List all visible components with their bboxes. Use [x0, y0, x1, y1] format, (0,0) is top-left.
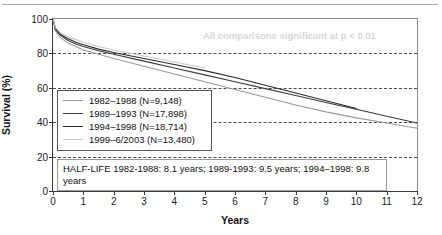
x-tick-label: 12: [411, 196, 422, 207]
x-tick-label: 0: [50, 196, 56, 207]
y-tick-label: 60: [37, 82, 48, 93]
legend-swatch-line-icon: [63, 113, 83, 114]
x-tick-mark: [387, 191, 388, 195]
y-tick-label: 0: [42, 186, 48, 197]
figure: Survival (%) Years 100806040200 01234567…: [0, 0, 442, 235]
y-tick-label: 20: [37, 151, 48, 162]
legend-item-label: 1999–6/2003 (N=13,480): [89, 134, 195, 145]
x-tick-label: 1: [81, 196, 87, 207]
x-axis-label: Years: [221, 214, 249, 226]
legend-swatch-line-icon: [63, 139, 83, 140]
significance-note: All comparisons significant at p < 0.01: [203, 30, 376, 41]
legend: 1982–1988 (N=9,148)1989–1993 (N=17,898)1…: [57, 90, 212, 151]
x-tick-mark: [296, 191, 297, 195]
x-tick-mark: [174, 191, 175, 195]
x-tick-label: 9: [323, 196, 329, 207]
x-tick-mark: [356, 191, 357, 195]
x-tick-mark: [205, 191, 206, 195]
x-tick-mark: [114, 191, 115, 195]
legend-item-label: 1982–1988 (N=9,148): [89, 95, 182, 106]
x-tick-mark: [235, 191, 236, 195]
y-tick-label: 40: [37, 117, 48, 128]
legend-item-label: 1989–1993 (N=17,898): [89, 108, 187, 119]
x-tick-label: 7: [263, 196, 269, 207]
x-tick-label: 8: [293, 196, 299, 207]
legend-item[interactable]: 1999–6/2003 (N=13,480): [63, 133, 206, 146]
legend-item[interactable]: 1994–1998 (N=18,714): [63, 120, 206, 133]
legend-swatch-line-icon: [63, 100, 83, 101]
legend-swatch-line-icon: [63, 126, 83, 127]
x-tick-label: 4: [172, 196, 178, 207]
x-tick-label: 2: [111, 196, 117, 207]
x-tick-mark: [144, 191, 145, 195]
legend-item[interactable]: 1989–1993 (N=17,898): [63, 107, 206, 120]
y-tick-label: 80: [37, 48, 48, 59]
x-tick-mark: [53, 191, 54, 195]
half-life-note: HALF-LIFE 1982-1988: 8.1 years; 1989-199…: [57, 159, 387, 191]
x-tick-mark: [326, 191, 327, 195]
legend-item-label: 1994–1998 (N=18,714): [89, 121, 187, 132]
y-axis-label: Survival (%): [0, 75, 12, 135]
x-tick-label: 3: [141, 196, 147, 207]
top-divider: [2, 4, 438, 5]
x-tick-label: 5: [202, 196, 208, 207]
y-tick-label: 100: [31, 14, 48, 25]
x-tick-mark: [265, 191, 266, 195]
x-tick-mark: [83, 191, 84, 195]
legend-item[interactable]: 1982–1988 (N=9,148): [63, 94, 206, 107]
x-tick-label: 11: [381, 196, 391, 207]
x-tick-label: 10: [351, 196, 362, 207]
x-tick-label: 6: [232, 196, 238, 207]
x-tick-mark: [417, 191, 418, 195]
